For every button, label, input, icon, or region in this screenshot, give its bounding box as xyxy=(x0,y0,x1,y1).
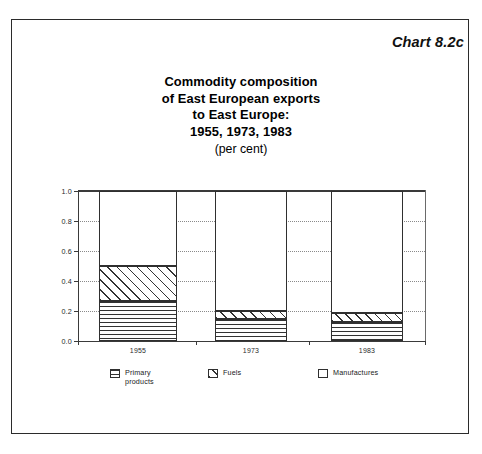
bar-segment-fuels-1983 xyxy=(331,313,403,322)
y-tick-label: 0.8 xyxy=(46,217,72,226)
y-tick-mark xyxy=(74,251,79,252)
y-tick-label: 1.0 xyxy=(46,187,72,196)
legend-label: Fuels xyxy=(223,368,241,377)
bar-segment-primary-products-1983 xyxy=(331,322,403,342)
x-tick-label: 1973 xyxy=(231,347,271,354)
y-tick-mark xyxy=(74,221,79,222)
bar-segment-fuels-1973 xyxy=(215,311,287,319)
legend-swatch-fuels-icon xyxy=(208,369,218,378)
x-tick-label: 1955 xyxy=(118,347,158,354)
legend-swatch-primary-products-icon xyxy=(110,369,120,378)
chart-page: Chart 8.2c Commodity composition of East… xyxy=(0,0,482,454)
plot-right-border xyxy=(425,190,426,342)
bar-segment-manufactures-1983 xyxy=(331,191,403,313)
bar-segment-fuels-1955 xyxy=(99,266,177,301)
bar-segment-manufactures-1955 xyxy=(99,191,177,266)
y-axis-line xyxy=(78,190,79,342)
bar-1955 xyxy=(99,191,177,341)
bar-segment-primary-products-1955 xyxy=(99,301,177,342)
legend-label: Manufactures xyxy=(333,368,378,377)
y-tick-mark xyxy=(74,311,79,312)
x-tick-mark xyxy=(78,341,79,345)
legend-swatch-manufactures-icon xyxy=(318,369,328,378)
x-tick-mark xyxy=(425,341,426,345)
x-axis-line xyxy=(78,341,426,342)
y-tick-mark xyxy=(74,191,79,192)
y-tick-label: 0.2 xyxy=(46,307,72,316)
x-tick-mark xyxy=(309,341,310,345)
chart-legend: Primary productsFuelsManufactures xyxy=(78,368,428,394)
x-tick-label: 1983 xyxy=(347,347,387,354)
x-tick-mark xyxy=(196,341,197,345)
y-tick-label: 0.0 xyxy=(46,337,72,346)
bar-segment-primary-products-1973 xyxy=(215,319,287,342)
legend-label: Primary products xyxy=(125,368,154,387)
bar-1983 xyxy=(331,191,403,341)
y-tick-label: 0.4 xyxy=(46,277,72,286)
y-tick-label: 0.6 xyxy=(46,247,72,256)
y-tick-mark xyxy=(74,281,79,282)
bar-1973 xyxy=(215,191,287,341)
bar-segment-manufactures-1973 xyxy=(215,191,287,311)
